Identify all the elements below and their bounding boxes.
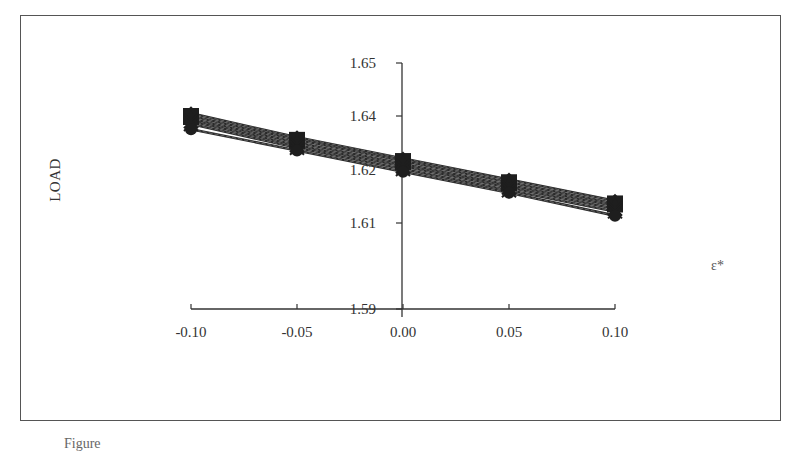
series-group bbox=[183, 106, 623, 221]
x-tick-label: -0.05 bbox=[281, 324, 312, 340]
x-tick-label: -0.10 bbox=[175, 324, 206, 340]
x-tick-label: 0.05 bbox=[496, 324, 522, 340]
y-tick-label: 1.59 bbox=[350, 301, 376, 317]
circle-marker-icon bbox=[397, 166, 409, 178]
y-tick-label: 1.64 bbox=[350, 108, 377, 124]
circle-marker-icon bbox=[503, 187, 515, 199]
x-tick-label: 0.00 bbox=[390, 324, 416, 340]
figure-caption: Figure bbox=[64, 436, 101, 452]
y-tick-label: 1.61 bbox=[350, 215, 376, 231]
y-tick-label: 1.65 bbox=[350, 55, 376, 71]
circle-marker-icon bbox=[185, 123, 197, 135]
circle-marker-icon bbox=[609, 210, 621, 222]
circle-marker-icon bbox=[291, 144, 303, 156]
x-tick-label: 0.10 bbox=[602, 324, 628, 340]
